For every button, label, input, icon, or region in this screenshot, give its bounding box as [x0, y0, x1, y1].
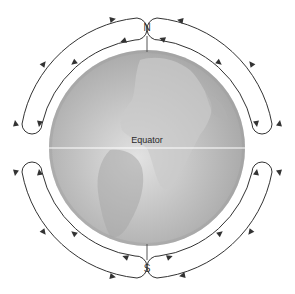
global-circulation-diagram: Equator N S: [0, 0, 295, 294]
arrow-icon: [247, 59, 255, 67]
arrow-icon: [12, 169, 19, 176]
arrow-icon: [276, 169, 283, 176]
cell-loop: [252, 162, 272, 172]
arrow-icon: [246, 228, 254, 236]
arrow-icon: [158, 35, 166, 43]
arrow-icon: [253, 169, 260, 176]
arrow-icon: [40, 228, 48, 236]
equator-label: Equator: [131, 135, 163, 145]
arrow-icon: [253, 120, 260, 127]
arrow-icon: [119, 37, 127, 45]
arrow-icon: [12, 120, 19, 127]
arrow-icon: [40, 59, 48, 67]
arrow-icon: [276, 120, 283, 127]
cell-loop: [252, 124, 272, 134]
arrow-icon: [177, 17, 184, 24]
